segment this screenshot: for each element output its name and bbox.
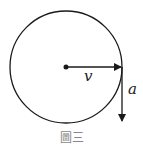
acceleration-label: a (128, 82, 137, 97)
circular-motion-diagram (0, 0, 143, 151)
velocity-label: v (84, 69, 92, 84)
figure-caption: 圖三 (60, 132, 84, 144)
